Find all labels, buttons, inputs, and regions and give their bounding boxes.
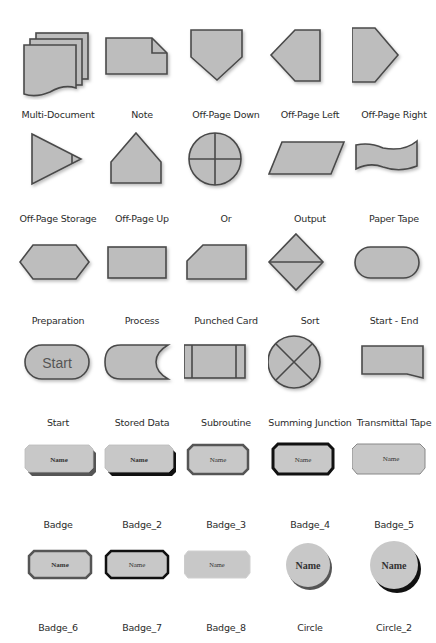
shape-label: Off-Page Up	[94, 213, 190, 224]
shape-label: Badge	[10, 519, 106, 530]
shape-label: Badge_3	[178, 519, 274, 530]
shape-label: Start - End	[346, 315, 436, 326]
shape-label: Circle	[262, 622, 358, 633]
shape-label: Stored Data	[94, 417, 190, 428]
shape-badge-3[interactable]: Name Badge_3	[184, 432, 268, 535]
shape-label: Or	[178, 213, 274, 224]
punched-card-icon	[184, 228, 268, 306]
summing-junction-icon	[268, 330, 352, 408]
shape-off-page-storage[interactable]: Off-Page Storage	[16, 126, 100, 229]
shape-multi-document[interactable]: Multi-Document	[16, 22, 100, 125]
off-page-right-icon	[352, 22, 436, 100]
svg-text:Name: Name	[51, 561, 69, 569]
shape-transmittal-tape[interactable]: Transmittal Tape	[352, 330, 436, 433]
badge-4-icon: Name	[268, 432, 352, 510]
svg-text:Name: Name	[50, 456, 68, 464]
circle-2-icon: Name	[352, 535, 436, 613]
shape-circle[interactable]: Name Circle	[268, 535, 352, 638]
shape-badge[interactable]: Name Badge	[16, 432, 100, 535]
process-icon	[100, 228, 184, 306]
shape-label: Sort	[262, 315, 358, 326]
multi-document-icon	[16, 22, 100, 100]
shape-label: Circle_2	[346, 622, 436, 633]
shape-start-end[interactable]: Start - End	[352, 228, 436, 331]
svg-text:Name: Name	[295, 456, 312, 464]
svg-text:Name: Name	[210, 456, 227, 464]
shape-label: Badge_4	[262, 519, 358, 530]
start-icon: Start	[16, 330, 100, 408]
shape-badge-7[interactable]: Name Badge_7	[100, 535, 184, 638]
shape-label: Note	[94, 109, 190, 120]
badge-6-icon: Name	[16, 535, 100, 613]
preparation-icon	[16, 228, 100, 306]
shape-label: Transmittal Tape	[346, 417, 436, 428]
shape-label: Off-Page Left	[262, 109, 358, 120]
shape-paper-tape[interactable]: Paper Tape	[352, 126, 436, 229]
circle-icon: Name	[268, 535, 352, 613]
shape-label: Off-Page Storage	[10, 213, 106, 224]
note-icon	[100, 22, 184, 100]
shape-off-page-up[interactable]: Off-Page Up	[100, 126, 184, 229]
transmittal-tape-icon	[352, 330, 436, 408]
shape-label: Badge_7	[94, 622, 190, 633]
shape-label: Multi-Document	[10, 109, 106, 120]
shape-preparation[interactable]: Preparation	[16, 228, 100, 331]
shape-label: Punched Card	[178, 315, 274, 326]
shape-start[interactable]: Start Start	[16, 330, 100, 433]
shape-label: Off-Page Down	[178, 109, 274, 120]
shape-stored-data[interactable]: Stored Data	[100, 330, 184, 433]
shape-summing-junction[interactable]: Summing Junction	[268, 330, 352, 433]
off-page-left-icon	[268, 22, 352, 100]
start-end-icon	[352, 228, 436, 306]
badge-3-icon: Name	[184, 432, 268, 510]
or-icon	[184, 126, 268, 204]
sort-icon	[268, 228, 352, 306]
shape-or[interactable]: Or	[184, 126, 268, 229]
shape-note[interactable]: Note	[100, 22, 184, 125]
start-inner-text: Start	[42, 355, 72, 371]
svg-text:Name: Name	[129, 561, 146, 569]
shape-off-page-left[interactable]: Off-Page Left	[268, 22, 352, 125]
shape-label: Subroutine	[178, 417, 274, 428]
badge-2-icon: Name	[100, 432, 184, 510]
badge-8-icon: Name	[184, 535, 268, 613]
shape-label: Preparation	[10, 315, 106, 326]
subroutine-icon	[184, 330, 268, 408]
off-page-up-icon	[100, 126, 184, 204]
shape-label: Badge_8	[178, 622, 274, 633]
shape-process[interactable]: Process	[100, 228, 184, 331]
shape-label: Badge_6	[10, 622, 106, 633]
svg-text:Name: Name	[130, 456, 148, 464]
svg-text:Name: Name	[296, 560, 322, 571]
off-page-storage-icon	[16, 126, 100, 204]
shape-sort[interactable]: Sort	[268, 228, 352, 331]
badge-icon: Name	[16, 432, 100, 510]
shape-label: Start	[10, 417, 106, 428]
shape-badge-6[interactable]: Name Badge_6	[16, 535, 100, 638]
shape-off-page-down[interactable]: Off-Page Down	[184, 22, 268, 125]
badge-5-icon: Name	[352, 432, 436, 510]
shape-label: Summing Junction	[262, 417, 358, 428]
shape-badge-8[interactable]: Name Badge_8	[184, 535, 268, 638]
shape-label: Paper Tape	[346, 213, 436, 224]
paper-tape-icon	[352, 126, 436, 204]
shape-badge-2[interactable]: Name Badge_2	[100, 432, 184, 535]
shape-label: Off-Page Right	[346, 109, 436, 120]
shape-circle-2[interactable]: Name Circle_2	[352, 535, 436, 638]
shape-label: Process	[94, 315, 190, 326]
shape-label: Output	[262, 213, 358, 224]
shape-punched-card[interactable]: Punched Card	[184, 228, 268, 331]
svg-text:Name: Name	[383, 455, 400, 463]
shape-output[interactable]: Output	[268, 126, 352, 229]
shape-off-page-right[interactable]: Off-Page Right	[352, 22, 436, 125]
off-page-down-icon	[184, 22, 268, 100]
output-icon	[268, 126, 352, 204]
shape-subroutine[interactable]: Subroutine	[184, 330, 268, 433]
shape-label: Badge_2	[94, 519, 190, 530]
shape-badge-5[interactable]: Name Badge_5	[352, 432, 436, 535]
shape-badge-4[interactable]: Name Badge_4	[268, 432, 352, 535]
svg-text:Name: Name	[382, 560, 408, 571]
stored-data-icon	[100, 330, 184, 408]
shape-label: Badge_5	[346, 519, 436, 530]
svg-text:Name: Name	[209, 561, 225, 568]
